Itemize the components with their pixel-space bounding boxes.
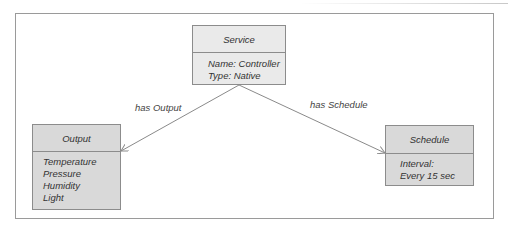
output-node[interactable]: Output Temperature Pressure Humidity Lig… — [32, 124, 121, 210]
output-item-temperature: Temperature — [43, 156, 120, 168]
schedule-node-title: Schedule — [386, 126, 473, 154]
output-node-attributes: Temperature Pressure Humidity Light — [33, 152, 120, 204]
edge-has-schedule-arrow — [239, 85, 385, 153]
schedule-node[interactable]: Schedule Interval: Every 15 sec — [385, 125, 474, 186]
service-node-title: Service — [193, 26, 285, 53]
service-attr-type: Type: Native — [208, 70, 285, 82]
output-item-light: Light — [43, 192, 120, 204]
edge-label-has-schedule: has Schedule — [310, 99, 368, 110]
service-node[interactable]: Service Name: Controller Type: Native — [192, 25, 286, 85]
output-node-title: Output — [33, 125, 120, 152]
service-attr-name: Name: Controller — [208, 58, 285, 70]
schedule-attr-interval-value: Every 15 sec — [400, 170, 473, 182]
output-item-humidity: Humidity — [43, 180, 120, 192]
schedule-node-attributes: Interval: Every 15 sec — [386, 154, 473, 182]
edge-label-has-output: has Output — [135, 102, 181, 113]
schedule-attr-interval-label: Interval: — [400, 158, 473, 170]
output-item-pressure: Pressure — [43, 168, 120, 180]
service-node-attributes: Name: Controller Type: Native — [193, 53, 285, 82]
edge-has-output-arrow — [121, 85, 239, 151]
